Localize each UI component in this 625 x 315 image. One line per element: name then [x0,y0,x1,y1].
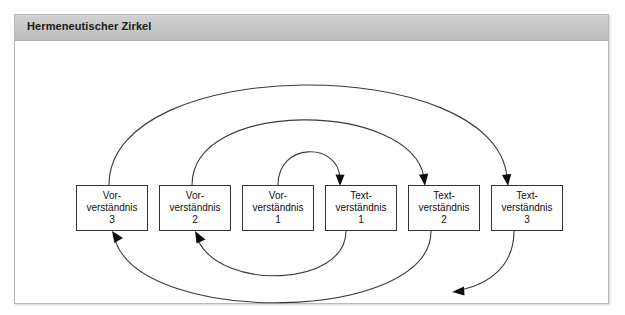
arc-vor2-to-text2 [192,120,428,186]
node-label-line1: Vor- [186,190,204,202]
arc-vor3-to-text3 [109,85,511,186]
node-text-verstaendnis-1[interactable]: Text- verständnis 1 [325,185,397,231]
node-label-line1: Text- [350,190,372,202]
node-vor-verstaendnis-1[interactable]: Vor- verständnis 1 [242,185,314,231]
figure-title: Hermeneutischer Zirkel [27,20,151,32]
node-label-line3: 3 [109,214,115,226]
node-label-line3: 3 [524,214,530,226]
node-label-line3: 1 [358,214,364,226]
node-label-line2: verständnis [86,202,137,214]
node-label-line2: verständnis [335,202,386,214]
arc-text3-outward [452,231,514,296]
node-text-verstaendnis-2[interactable]: Text- verständnis 2 [408,185,480,231]
arc-vor1-to-text1 [278,152,345,186]
node-label-line1: Vor- [269,190,287,202]
node-label-line2: verständnis [169,202,220,214]
arc-text2-to-vor3 [112,231,431,303]
node-label-line3: 2 [441,214,447,226]
figure-panel: Hermeneutischer Zirkel [14,14,609,304]
node-label-line3: 1 [275,214,281,226]
node-text-verstaendnis-3[interactable]: Text- verständnis 3 [491,185,563,231]
node-label-line3: 2 [192,214,198,226]
node-vor-verstaendnis-2[interactable]: Vor- verständnis 2 [159,185,231,231]
node-label-line2: verständnis [252,202,303,214]
node-vor-verstaendnis-3[interactable]: Vor- verständnis 3 [76,185,148,231]
node-label-line1: Vor- [103,190,121,202]
node-label-line1: Text- [433,190,455,202]
spiral-arcs [15,41,608,303]
node-label-line1: Text- [516,190,538,202]
diagram-canvas: Vor- verständnis 3 Vor- verständnis 2 Vo… [15,41,608,303]
arc-text1-to-vor2 [195,231,346,276]
node-label-line2: verständnis [418,202,469,214]
node-label-line2: verständnis [501,202,552,214]
